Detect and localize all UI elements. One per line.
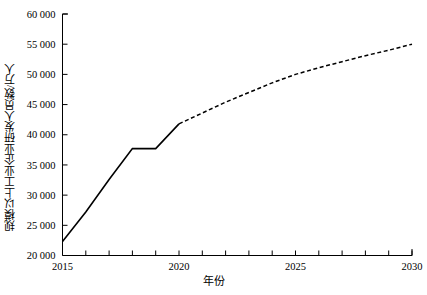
y-tick-label: 25 000 bbox=[27, 220, 56, 231]
y-tick-label: 45 000 bbox=[27, 99, 56, 110]
y-tick-label: 40 000 bbox=[27, 129, 56, 140]
x-tick-label: 2015 bbox=[52, 261, 73, 272]
y-tick-label: 35 000 bbox=[27, 160, 56, 171]
y-tick-label: 30 000 bbox=[27, 190, 56, 201]
chart-container: 20 00025 00030 00035 00040 00045 00050 0… bbox=[0, 0, 427, 295]
line-chart-plot: 20 00025 00030 00035 00040 00045 00050 0… bbox=[0, 0, 427, 295]
x-tick-label: 2030 bbox=[402, 261, 423, 272]
y-tick-label: 20 000 bbox=[27, 250, 56, 261]
x-tick-label: 2025 bbox=[285, 261, 306, 272]
x-tick-label: 2020 bbox=[169, 261, 190, 272]
y-tick-label: 60 000 bbox=[27, 9, 56, 20]
y-tick-label: 50 000 bbox=[27, 69, 56, 80]
series-line-dashed bbox=[179, 44, 412, 124]
y-tick-group bbox=[63, 14, 68, 256]
y-tick-label: 55 000 bbox=[27, 39, 56, 50]
series-line-solid bbox=[63, 124, 180, 242]
y-tick-label-group: 20 00025 00030 00035 00040 00045 00050 0… bbox=[27, 9, 56, 262]
x-tick-group bbox=[63, 251, 413, 256]
x-tick-label-group: 2015202020252030 bbox=[52, 261, 423, 272]
data-series-group bbox=[63, 44, 413, 241]
